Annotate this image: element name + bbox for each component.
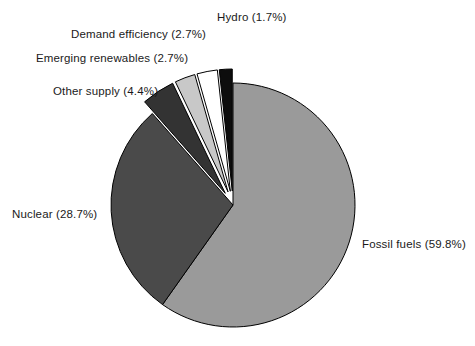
slice-label-demand-efficiency: Demand efficiency (2.7%) xyxy=(71,28,206,41)
slice-label-hydro: Hydro (1.7%) xyxy=(217,11,287,24)
slice-label-nuclear: Nuclear (28.7%) xyxy=(12,208,97,221)
slice-label-emerging-renewables: Emerging renewables (2.7%) xyxy=(36,52,188,65)
slice-label-fossil-fuels: Fossil fuels (59.8%) xyxy=(362,238,466,251)
pie-chart-figure: Fossil fuels (59.8%)Nuclear (28.7%)Other… xyxy=(0,0,475,346)
pie-slices-group: Fossil fuels (59.8%)Nuclear (28.7%)Other… xyxy=(111,69,355,327)
slice-label-other-supply: Other supply (4.4%) xyxy=(53,85,158,98)
